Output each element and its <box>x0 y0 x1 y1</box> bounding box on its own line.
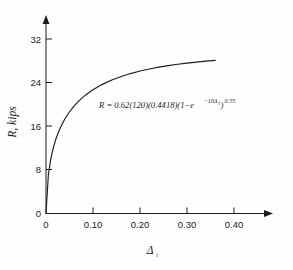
equation-close-paren: ) <box>220 100 224 110</box>
equation-exponent-minus-ten-delta: −10Δ <box>204 97 218 104</box>
y-axis-arrow-icon <box>43 15 50 24</box>
x-tick-label-010: 0.10 <box>84 219 103 230</box>
y-tick-label-16: 16 <box>30 121 41 132</box>
y-axis-title-group: R, kips <box>6 106 19 139</box>
x-axis-title-symbol: Δ <box>146 244 154 256</box>
x-tick-label-020: 0.20 <box>131 219 150 230</box>
equation-outer-exponent: 0.55 <box>225 97 236 104</box>
y-axis-title: R, kips <box>6 106 19 139</box>
y-tick-label-32: 32 <box>30 34 41 45</box>
equation-lead: R = 0.62(120)(0.4418)(1−e <box>98 100 194 110</box>
x-tick-label-040: 0.40 <box>225 219 244 230</box>
x-axis-arrow-icon <box>264 210 273 217</box>
x-axis-title-group: Δ i <box>146 244 159 258</box>
x-axis-title-subscript: i <box>156 252 158 258</box>
x-tick-label-0: 0 <box>43 219 48 230</box>
data-curve <box>46 60 215 213</box>
y-tick-label-8: 8 <box>36 164 41 175</box>
equation-annotation-group: R = 0.62(120)(0.4418)(1−e −10Δ i ) 0.55 <box>98 97 235 110</box>
y-tick-label-0: 0 <box>36 208 41 219</box>
y-tick-label-24: 24 <box>30 77 41 88</box>
figure-canvas: 32 24 16 8 0 0 0.10 0.20 0.30 0.40 R, ki… <box>0 0 293 270</box>
x-tick-label-030: 0.30 <box>178 219 197 230</box>
plot-svg: 32 24 16 8 0 0 0.10 0.20 0.30 0.40 R, ki… <box>0 0 293 270</box>
